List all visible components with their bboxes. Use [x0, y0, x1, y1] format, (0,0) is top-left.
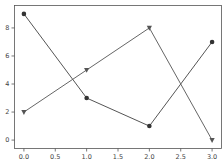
x-tick-label: 1.0: [81, 153, 91, 161]
x-tick-label: 2.0: [144, 153, 154, 161]
circle-marker-icon: [84, 96, 89, 101]
line-chart: 0.00.51.01.52.02.53.0 02468: [0, 0, 224, 165]
triangle-down-marker-icon: [147, 26, 152, 31]
x-tick-label: 1.5: [113, 153, 123, 161]
triangle-down-marker-icon: [209, 138, 214, 143]
y-tick-label: 6: [5, 52, 9, 60]
x-axis: 0.00.51.01.52.02.53.0: [19, 149, 218, 161]
y-tick-label: 0: [5, 136, 9, 144]
series-triangle: [21, 26, 214, 143]
triangle-down-marker-icon: [84, 68, 89, 73]
series-line: [24, 28, 212, 140]
x-tick-label: 0.5: [50, 153, 60, 161]
series-circle: [22, 12, 215, 129]
triangle-down-marker-icon: [21, 110, 26, 115]
x-tick-label: 2.5: [176, 153, 186, 161]
series-line: [24, 14, 212, 126]
x-tick-label: 0.0: [19, 153, 29, 161]
y-axis: 02468: [5, 24, 14, 144]
y-tick-label: 2: [5, 108, 9, 116]
y-tick-label: 4: [5, 80, 9, 88]
circle-marker-icon: [210, 40, 215, 45]
axes-frame: [15, 6, 222, 149]
series-layer: [21, 12, 214, 143]
circle-marker-icon: [22, 12, 27, 17]
circle-marker-icon: [147, 124, 152, 129]
x-tick-label: 3.0: [207, 153, 217, 161]
y-tick-label: 8: [5, 24, 9, 32]
